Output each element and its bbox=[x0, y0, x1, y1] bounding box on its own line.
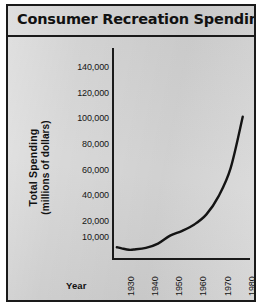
y-tick-label: 10,000 bbox=[82, 232, 109, 242]
y-tick-label: 140,000 bbox=[77, 62, 109, 72]
x-tick-label: 1940 bbox=[150, 276, 160, 296]
x-tick-label: 1930 bbox=[126, 276, 136, 296]
plot-area bbox=[112, 48, 250, 260]
x-axis-title: Year bbox=[66, 280, 86, 291]
x-tick-label: 1950 bbox=[174, 276, 184, 296]
x-tick-label: 1980 bbox=[247, 276, 256, 296]
data-line-series bbox=[112, 48, 250, 260]
y-tick-label: 100,000 bbox=[77, 113, 109, 123]
y-tick-label: 40,000 bbox=[82, 190, 109, 200]
x-tick-label: 1960 bbox=[198, 276, 208, 296]
page-title: Consumer Recreation Spending bbox=[17, 11, 256, 27]
y-tick-label: 80,000 bbox=[82, 139, 109, 149]
y-axis-tick-labels: 10,00020,00040,00060,00080,000100,000120… bbox=[60, 48, 109, 260]
x-axis-tick-labels: 193019401950196019701980 bbox=[112, 264, 250, 302]
chart-figure: Consumer Recreation Spending Total Spend… bbox=[0, 0, 262, 306]
y-tick-label: 60,000 bbox=[82, 165, 109, 175]
y-axis-title-line1: Total Spending bbox=[28, 92, 40, 242]
title-bar: Consumer Recreation Spending bbox=[8, 6, 254, 36]
y-tick-label: 20,000 bbox=[82, 216, 109, 226]
y-axis-title: Total Spending (millions of dollars) bbox=[28, 92, 51, 242]
title-divider bbox=[8, 35, 254, 37]
y-axis-title-line2: (millions of dollars) bbox=[39, 92, 50, 242]
x-tick-label: 1970 bbox=[223, 276, 233, 296]
chart-frame: Consumer Recreation Spending Total Spend… bbox=[6, 4, 256, 302]
y-tick-label: 120,000 bbox=[77, 88, 109, 98]
